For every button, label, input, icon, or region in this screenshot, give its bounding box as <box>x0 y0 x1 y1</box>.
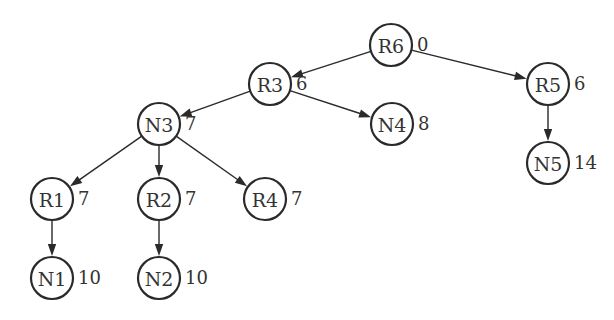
node-label: R2 <box>146 189 172 211</box>
edge-line <box>290 91 362 114</box>
node-r6: R60 <box>370 24 428 66</box>
node-n1: N110 <box>31 257 101 299</box>
node-value: 7 <box>78 188 89 209</box>
node-value: 7 <box>291 188 302 209</box>
node-r4: R47 <box>244 178 302 220</box>
edge-line <box>176 136 239 180</box>
node-value: 7 <box>185 113 196 134</box>
node-label: N5 <box>534 153 563 175</box>
node-value: 6 <box>296 73 307 94</box>
edge-r5-n5 <box>544 105 552 141</box>
edge-line <box>78 136 142 181</box>
node-value: 0 <box>417 34 428 55</box>
node-label: R6 <box>378 35 404 57</box>
edge-n3-r2 <box>155 145 163 177</box>
node-r1: R17 <box>31 178 89 220</box>
edge-line <box>300 51 371 74</box>
edge-n3-r1 <box>70 136 142 186</box>
arrowhead-icon <box>358 109 371 117</box>
arrowhead-icon <box>514 72 527 80</box>
node-n5: N514 <box>527 142 597 184</box>
node-value: 8 <box>418 113 429 134</box>
node-n4: N48 <box>371 103 429 145</box>
edge-r2-n2 <box>155 220 163 256</box>
edge-r1-n1 <box>48 220 56 256</box>
node-value: 10 <box>185 267 208 288</box>
edge-n3-r4 <box>176 136 247 186</box>
node-label: R1 <box>39 189 65 211</box>
arrowhead-icon <box>235 176 247 186</box>
node-label: R4 <box>252 189 278 211</box>
node-value: 10 <box>78 267 101 288</box>
arrowhead-icon <box>544 129 552 141</box>
node-label: N2 <box>145 268 174 290</box>
edge-line <box>189 91 250 113</box>
node-value: 7 <box>185 188 196 209</box>
nodes-layer: R60R36R56N37N48N514R17R27R47N110N210 <box>31 24 597 299</box>
arrowhead-icon <box>70 176 82 186</box>
arrowhead-icon <box>48 244 56 256</box>
node-value: 6 <box>574 73 585 94</box>
arrowhead-icon <box>155 165 163 177</box>
node-r2: R27 <box>138 178 196 220</box>
node-label: N1 <box>38 268 67 290</box>
edge-r3-n4 <box>290 91 371 118</box>
node-n2: N210 <box>138 257 208 299</box>
node-r3: R36 <box>249 63 307 105</box>
node-r5: R56 <box>527 63 585 105</box>
arrowhead-icon <box>155 244 163 256</box>
tree-diagram: R60R36R56N37N48N514R17R27R47N110N210 <box>0 0 614 320</box>
node-label: R3 <box>257 74 283 96</box>
node-label: R5 <box>535 74 561 96</box>
edge-r6-r5 <box>411 50 526 80</box>
node-n3: N37 <box>138 103 196 145</box>
node-label: N4 <box>378 114 407 136</box>
node-label: N3 <box>145 114 174 136</box>
node-value: 14 <box>574 152 597 173</box>
